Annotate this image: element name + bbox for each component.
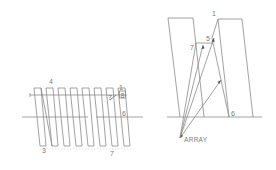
label-4: 4 [49, 78, 53, 85]
label-3: 3 [42, 147, 46, 154]
arrowhead-6 [218, 80, 222, 84]
label-7-right: 7 [190, 44, 194, 51]
label-array: ARRAY [184, 136, 208, 143]
left-bar-array: 4 1 8 7 6 3 7 [22, 78, 143, 157]
panel-edge-upper [212, 19, 218, 38]
line-5-to-6 [212, 38, 229, 117]
label-8: 8 [121, 92, 125, 99]
label-7-bottom: 7 [110, 150, 114, 157]
label-7-inner: 7 [108, 94, 112, 101]
ray-to-7 [180, 43, 196, 138]
label-5: 5 [206, 35, 210, 42]
arrowhead-7 [202, 45, 205, 49]
right-panel-diagram: 1 5 7 6 ARRAY [167, 10, 262, 143]
diagram-canvas: 4 1 8 7 6 3 7 1 5 7 6 ARRAY [0, 0, 276, 170]
label-1-right: 1 [212, 10, 216, 17]
label-6-right: 6 [231, 110, 235, 117]
right-panel [218, 19, 253, 117]
ray-to-7-arrow [180, 45, 203, 138]
label-6: 6 [122, 110, 126, 117]
label-1: 1 [119, 84, 123, 91]
